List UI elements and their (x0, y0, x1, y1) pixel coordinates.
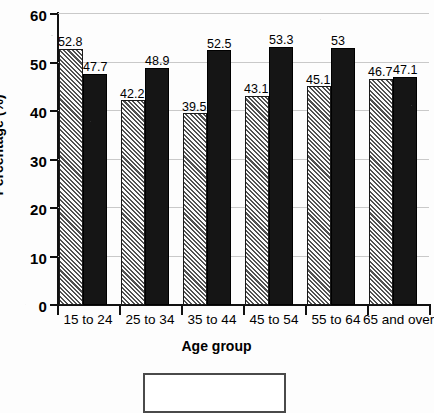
bar-group: 42.248.9 (119, 14, 181, 305)
bar-value-label: 47.7 (83, 61, 107, 74)
y-axis-title: Percentage (%) (0, 94, 6, 195)
plot-area: 010203040506052.847.742.248.939.552.543.… (57, 14, 429, 305)
bar-value-label: 46.7 (368, 66, 392, 79)
bar: 53 (331, 48, 355, 305)
bar-group: 46.747.1 (367, 14, 429, 305)
y-axis-tick-label: 30 (30, 152, 47, 169)
bar: 43.1 (245, 96, 269, 305)
y-axis-tick-label: 20 (30, 201, 47, 218)
x-axis-category-label: 55 to 64 (301, 312, 371, 327)
bar: 52.8 (59, 49, 83, 305)
x-axis-title: Age group (0, 338, 433, 354)
bar: 45.1 (307, 86, 331, 305)
y-axis-tick-label: 10 (30, 249, 47, 266)
y-axis-tick-label: 0 (38, 298, 47, 315)
bar: 52.5 (207, 50, 231, 305)
bar: 47.1 (393, 77, 417, 305)
bar-group: 43.153.3 (243, 14, 305, 305)
y-axis-tick-label: 50 (30, 55, 47, 72)
bar-group: 52.847.7 (57, 14, 119, 305)
bar-value-label: 47.1 (393, 64, 417, 77)
bar-value-label: 53 (331, 35, 345, 48)
y-axis-tick-label: 60 (30, 7, 47, 24)
x-axis-category-label: 65 and over (363, 312, 433, 327)
bar-value-label: 52.5 (207, 38, 231, 51)
y-axis-tick-label: 40 (30, 104, 47, 121)
bar-value-label: 42.2 (120, 88, 144, 101)
bar-value-label: 53.3 (269, 34, 293, 47)
x-axis-category-label: 25 to 34 (115, 312, 185, 327)
x-axis-category-label: 45 to 54 (239, 312, 309, 327)
bar-value-label: 48.9 (145, 55, 169, 68)
bar-value-label: 43.1 (244, 83, 268, 96)
bar: 53.3 (269, 47, 293, 306)
bar-group: 45.153 (305, 14, 367, 305)
bar: 47.7 (83, 74, 107, 305)
bar: 42.2 (121, 100, 145, 305)
bar: 39.5 (183, 113, 207, 305)
bar-value-label: 39.5 (182, 101, 206, 114)
bar: 48.9 (145, 68, 169, 305)
legend-box (143, 373, 286, 413)
bar-value-label: 45.1 (306, 74, 330, 87)
bar: 46.7 (369, 79, 393, 305)
bar-group: 39.552.5 (181, 14, 243, 305)
x-axis-category-label: 35 to 44 (177, 312, 247, 327)
x-axis-category-label: 15 to 24 (53, 312, 123, 327)
bar-value-label: 52.8 (58, 36, 82, 49)
